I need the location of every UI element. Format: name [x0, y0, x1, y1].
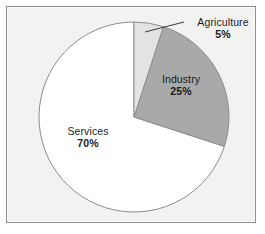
pie-chart-screenshot: Agriculture 5% Industry 25% Services 70%	[0, 0, 265, 234]
slice-label-industry-category: Industry	[150, 73, 212, 85]
slice-label-agriculture: Agriculture 5%	[186, 16, 260, 41]
slice-label-agriculture-category: Agriculture	[186, 16, 260, 28]
slice-label-services-percent: 70%	[57, 137, 119, 149]
slice-label-services-category: Services	[57, 125, 119, 137]
slice-label-agriculture-percent: 5%	[186, 28, 260, 40]
slice-label-services: Services 70%	[57, 125, 119, 150]
slice-label-industry: Industry 25%	[150, 73, 212, 98]
slice-label-industry-percent: 25%	[150, 85, 212, 97]
